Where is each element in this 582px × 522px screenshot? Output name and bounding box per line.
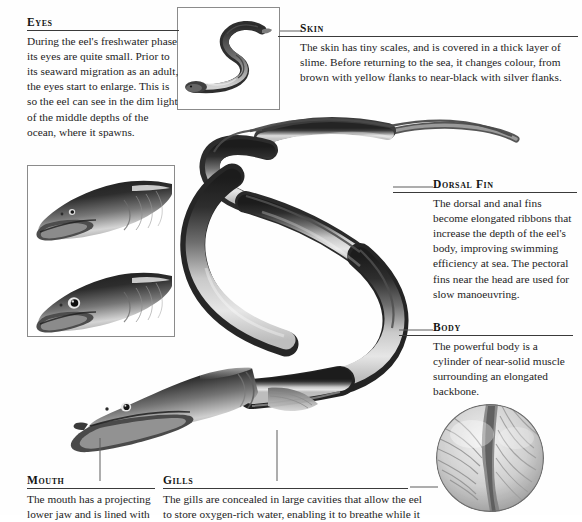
eye-comparison-drawing (28, 166, 172, 334)
callout-rule-body (399, 335, 573, 336)
callout-body-dorsal-fin: The dorsal and anal fins become elongate… (433, 196, 577, 302)
eel-head-eye-comparison-inset (27, 165, 175, 337)
callout-mouth: Mouth The mouth has a projecting lower j… (27, 470, 155, 522)
callout-heading-eyes: Eyes (27, 16, 53, 29)
gill-detail-circle-inset (436, 404, 544, 512)
callout-gills: Gills The gills are concealed in large c… (163, 470, 425, 522)
callout-rule-skin (278, 36, 578, 37)
callout-skin: Skin The skin has tiny scales, and is co… (300, 18, 578, 85)
callout-heading-gills: Gills (163, 474, 193, 487)
callout-body: Body The powerful body is a cylinder of … (433, 317, 573, 399)
callout-eyes: Eyes During the eel's freshwater phase i… (27, 12, 179, 140)
gill-detail-drawing (436, 404, 544, 512)
callout-dorsal-fin: Dorsal Fin The dorsal and anal fins beco… (433, 174, 577, 302)
callout-body-skin: The skin has tiny scales, and is covered… (300, 40, 578, 86)
callout-rule-dorsal-fin (393, 192, 577, 193)
callout-rule-gills (163, 488, 408, 489)
callout-heading-skin: Skin (300, 22, 324, 35)
callout-body-body: The powerful body is a cylinder of near-… (433, 339, 573, 400)
callout-heading-dorsal-fin: Dorsal Fin (433, 178, 494, 191)
whole-eel-inset (177, 7, 280, 110)
callout-body-mouth: The mouth has a projecting lower jaw and… (27, 492, 155, 522)
callout-rule-mouth (27, 488, 155, 489)
callout-body-eyes: During the eel's freshwater phase its ey… (27, 34, 179, 140)
whole-eel-inset-drawing (178, 8, 277, 107)
callout-body-gills: The gills are concealed in large cavitie… (163, 492, 425, 522)
callout-heading-mouth: Mouth (27, 474, 64, 487)
callout-heading-body: Body (433, 321, 461, 334)
callout-rule-eyes (27, 30, 179, 31)
